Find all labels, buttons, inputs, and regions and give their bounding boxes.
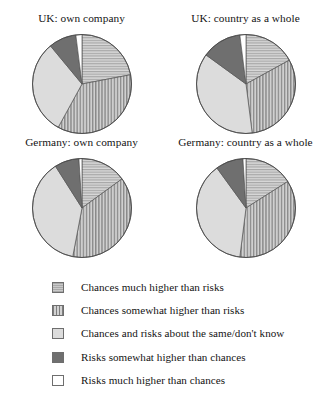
legend-item: Risks much higher than chances [0,369,327,392]
chart-panel-germany-own-company: Germany: own company [0,124,163,260]
pie-chart [194,156,298,260]
chart-panel-uk-country-as-a-whole: UK: country as a whole [164,0,327,136]
legend-swatch-icon [52,282,64,293]
chart-legend: Chances much higher than risks Chances s… [0,276,327,392]
legend-swatch-icon [52,328,64,339]
pie-chart [30,32,134,136]
legend-swatch-icon [52,375,64,386]
pie-chart [30,156,134,260]
pie-container [0,156,163,260]
chart-title: Germany: own company [0,124,163,149]
chart-title: Germany: country as a whole [164,124,327,149]
legend-item-label: Chances and risks about the same/don't k… [81,327,284,340]
legend-item-label: Risks somewhat higher than chances [81,351,246,364]
chart-panel-uk-own-company: UK: own company [0,0,163,136]
legend-swatch-icon [52,352,64,363]
pie-container [164,32,327,136]
legend-item-label: Chances much higher than risks [81,281,224,294]
legend-item-label: Risks much higher than chances [81,374,225,387]
legend-item: Risks somewhat higher than chances [0,346,327,369]
legend-item: Chances much higher than risks [0,276,327,299]
pie-container [164,156,327,260]
pie-chart-grid: UK: own company UK: country as a whole G… [0,0,327,272]
legend-item-label: Chances somewhat higher than risks [81,304,244,317]
pie-chart [194,32,298,136]
legend-item: Chances somewhat higher than risks [0,299,327,322]
chart-panel-germany-country-as-a-whole: Germany: country as a whole [164,124,327,260]
legend-swatch-icon [52,305,64,316]
chart-title: UK: country as a whole [164,0,327,25]
pie-container [0,32,163,136]
legend-item: Chances and risks about the same/don't k… [0,322,327,345]
chart-title: UK: own company [0,0,163,25]
